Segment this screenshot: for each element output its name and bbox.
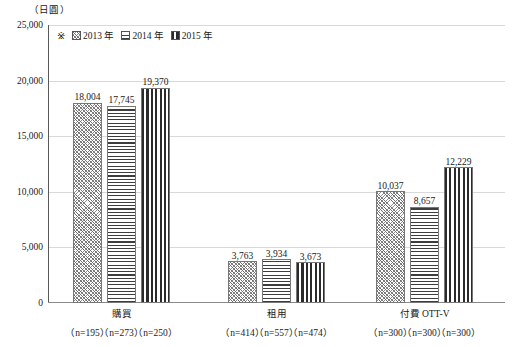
bar: 18,004 bbox=[73, 103, 102, 303]
bar-value-label: 12,229 bbox=[445, 157, 471, 167]
category-label: 購買 bbox=[112, 306, 132, 320]
bar: 17,745 bbox=[107, 106, 136, 303]
y-axis-tick-label: 0 bbox=[38, 298, 43, 308]
bar-value-label: 18,004 bbox=[74, 92, 100, 102]
y-axis-tick-label: 25,000 bbox=[17, 20, 43, 30]
plot-area: 05,00010,00015,00020,00025,000 18,00417,… bbox=[48, 25, 505, 303]
bar-value-label: 3,673 bbox=[300, 252, 321, 262]
bar-value-label: 8,657 bbox=[414, 196, 435, 206]
y-axis-tick-label: 5,000 bbox=[22, 242, 43, 252]
bar-value-label: 3,934 bbox=[266, 249, 287, 259]
sample-size-label: （n=250） bbox=[133, 325, 177, 339]
sample-size-label: （n=474） bbox=[288, 325, 332, 339]
bar-value-label: 3,763 bbox=[232, 251, 253, 261]
bar: 12,229 bbox=[444, 167, 473, 303]
bar-value-label: 19,370 bbox=[142, 77, 168, 87]
bar: 10,037 bbox=[376, 191, 405, 303]
category-label: 租用 bbox=[267, 306, 287, 320]
bar-value-label: 10,037 bbox=[377, 181, 403, 191]
bar: 3,934 bbox=[262, 259, 291, 303]
bar: 3,763 bbox=[228, 261, 257, 303]
y-axis-tick-label: 10,000 bbox=[17, 187, 43, 197]
bar: 3,673 bbox=[296, 262, 325, 303]
y-axis-unit-label: （日圓） bbox=[29, 2, 70, 16]
bar: 19,370 bbox=[141, 88, 170, 303]
sample-size-label: （n=300） bbox=[436, 325, 480, 339]
gridline bbox=[49, 81, 505, 82]
y-axis-line bbox=[48, 25, 49, 303]
bar-value-label: 17,745 bbox=[108, 95, 134, 105]
gridline bbox=[49, 25, 505, 26]
category-label: 付費 OTT-V bbox=[400, 306, 450, 320]
bar: 8,657 bbox=[410, 207, 439, 303]
y-axis-tick-label: 20,000 bbox=[17, 76, 43, 86]
bar-chart: （日圓） ※ 2013 年 2014 年 2015 年 05,00010,000… bbox=[0, 0, 513, 347]
y-axis-tick-label: 15,000 bbox=[17, 131, 43, 141]
